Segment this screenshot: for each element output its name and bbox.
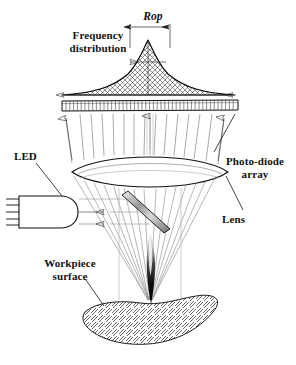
label-frequency-distribution: Frequency distribution — [50, 29, 146, 54]
diagram-canvas — [0, 0, 296, 365]
label-rop: Rop — [133, 10, 173, 23]
workpiece-surface-solid — [83, 295, 218, 344]
label-workpiece-surface: Workpiece surface — [24, 257, 116, 282]
optical-measurement-figure: Frequency distribution Rop Photo-diode a… — [0, 0, 296, 365]
focused-beam-spot — [147, 232, 155, 304]
led-pins — [6, 199, 19, 225]
label-photodiode-array: Photo-diode array — [216, 155, 294, 180]
leader-led — [36, 163, 62, 196]
label-led: LED — [14, 150, 56, 163]
label-lens: Lens — [222, 213, 270, 226]
leader-photodiode — [214, 114, 235, 152]
photo-diode-array — [62, 100, 238, 111]
leader-lens — [226, 176, 243, 210]
leader-workpiece — [86, 280, 104, 306]
